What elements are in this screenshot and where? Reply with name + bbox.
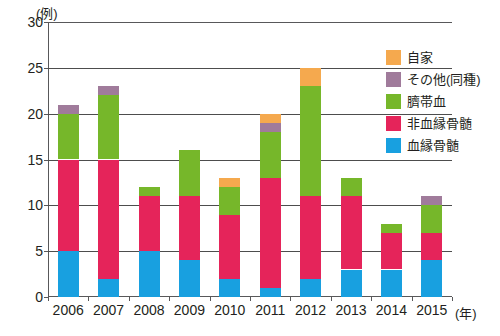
- x-tick-label: 2007: [87, 303, 131, 317]
- legend-color-swatch: [386, 50, 401, 65]
- x-tick-mark: [371, 297, 372, 301]
- bar-segment: [260, 114, 281, 123]
- x-tick-mark: [129, 297, 130, 301]
- bar-segment: [341, 270, 362, 298]
- x-tick-mark: [210, 297, 211, 301]
- legend-item-label: 臍帯血: [407, 95, 446, 108]
- bar-group: [219, 22, 240, 297]
- bar-segment: [381, 233, 402, 270]
- bar-segment: [219, 215, 240, 279]
- x-tick-mark: [48, 297, 49, 301]
- legend-item: 血縁骨髄: [386, 134, 498, 156]
- bar-group: [300, 22, 321, 297]
- x-tick-label: 2011: [248, 303, 292, 317]
- bar-segment: [219, 187, 240, 215]
- bar-segment: [421, 196, 442, 205]
- bar-segment: [260, 123, 281, 132]
- bar-group: [179, 22, 200, 297]
- legend-item-label: その他(同種): [407, 73, 481, 86]
- legend-color-swatch: [386, 138, 401, 153]
- legend-item-label: 自家: [407, 51, 433, 64]
- y-tick-label: 25: [27, 61, 43, 75]
- bar-segment: [139, 187, 160, 196]
- bar-segment: [98, 95, 119, 159]
- bar-segment: [179, 260, 200, 297]
- y-tick-label: 5: [35, 244, 43, 258]
- x-tick-mark: [290, 297, 291, 301]
- x-tick-mark: [250, 297, 251, 301]
- chart-legend: 自家その他(同種)臍帯血非血縁骨髄血縁骨髄: [386, 46, 498, 156]
- bar-segment: [421, 205, 442, 233]
- x-tick-label: 2006: [46, 303, 90, 317]
- legend-item-label: 血縁骨髄: [407, 139, 459, 152]
- x-tick-mark: [169, 297, 170, 301]
- bar-segment: [260, 178, 281, 288]
- bar-segment: [381, 270, 402, 298]
- bar-segment: [219, 178, 240, 187]
- legend-item: 臍帯血: [386, 90, 498, 112]
- bar-group: [260, 22, 281, 297]
- bar-segment: [179, 196, 200, 260]
- bar-segment: [300, 196, 321, 279]
- legend-item: 自家: [386, 46, 498, 68]
- bar-segment: [98, 86, 119, 95]
- x-tick-label: 2008: [127, 303, 171, 317]
- bar-segment: [98, 279, 119, 297]
- legend-color-swatch: [386, 116, 401, 131]
- bar-segment: [300, 86, 321, 196]
- bar-segment: [300, 279, 321, 297]
- x-tick-mark: [452, 297, 453, 301]
- stacked-bar-chart: (例) 302520151050 20062007200820092010201…: [0, 0, 500, 336]
- x-tick-mark: [88, 297, 89, 301]
- bar-segment: [300, 68, 321, 86]
- bar-segment: [421, 233, 442, 261]
- bar-segment: [219, 279, 240, 297]
- bar-group: [58, 22, 79, 297]
- bar-segment: [58, 251, 79, 297]
- bar-segment: [260, 132, 281, 178]
- x-tick-label: 2012: [289, 303, 333, 317]
- bar-segment: [139, 196, 160, 251]
- x-tick-label: 2015: [410, 303, 454, 317]
- bar-group: [341, 22, 362, 297]
- x-axis-unit-label: (年): [455, 303, 477, 322]
- bar-segment: [341, 178, 362, 196]
- x-tick-label: 2014: [369, 303, 413, 317]
- bar-segment: [139, 251, 160, 297]
- legend-item-label: 非血縁骨髄: [407, 117, 472, 130]
- x-tick-label: 2009: [167, 303, 211, 317]
- bar-group: [98, 22, 119, 297]
- y-tick-label: 20: [27, 107, 43, 121]
- legend-item: 非血縁骨髄: [386, 112, 498, 134]
- bar-segment: [58, 105, 79, 114]
- bar-segment: [260, 288, 281, 297]
- legend-color-swatch: [386, 94, 401, 109]
- y-tick-label: 30: [27, 15, 43, 29]
- y-tick-label: 15: [27, 153, 43, 167]
- x-tick-label: 2010: [208, 303, 252, 317]
- bar-segment: [179, 150, 200, 196]
- bar-segment: [381, 224, 402, 233]
- legend-color-swatch: [386, 72, 401, 87]
- x-tick-mark: [331, 297, 332, 301]
- y-tick-label: 0: [35, 290, 43, 304]
- bar-group: [139, 22, 160, 297]
- y-tick-label: 10: [27, 198, 43, 212]
- bar-segment: [421, 260, 442, 297]
- bar-segment: [58, 160, 79, 252]
- bar-segment: [58, 114, 79, 160]
- bar-segment: [341, 196, 362, 269]
- legend-item: その他(同種): [386, 68, 498, 90]
- x-tick-label: 2013: [329, 303, 373, 317]
- bar-segment: [98, 160, 119, 279]
- x-tick-mark: [412, 297, 413, 301]
